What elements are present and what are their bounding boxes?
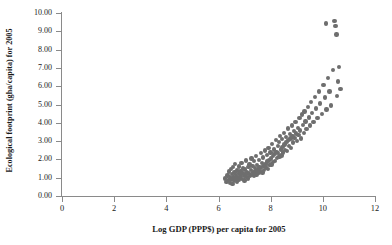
- data-point: [324, 107, 328, 111]
- data-point: [310, 111, 314, 115]
- y-tick-label-text: 6.00: [18, 82, 52, 90]
- data-point: [299, 136, 303, 140]
- x-tick-mark: [114, 197, 115, 202]
- data-point: [329, 103, 333, 107]
- data-point: [309, 100, 313, 104]
- y-tick-label-text: 7.00: [18, 64, 52, 72]
- x-tick-label: 10: [312, 204, 334, 214]
- y-tick-mark: [56, 123, 61, 124]
- data-point: [326, 76, 330, 80]
- y-tick-mark: [56, 68, 61, 69]
- data-point: [306, 105, 310, 109]
- x-tick-label: 0: [51, 204, 73, 214]
- data-point: [313, 95, 317, 99]
- y-tick-mark: [56, 31, 61, 32]
- data-point: [311, 120, 315, 124]
- data-point: [335, 94, 339, 98]
- y-tick-mark: [56, 105, 61, 106]
- x-tick-mark: [323, 197, 324, 202]
- y-tick-mark: [56, 13, 61, 14]
- y-tick-label-text: 1.00: [18, 174, 52, 182]
- y-tick-label-text: 2.00: [18, 155, 52, 163]
- y-tick-mark: [56, 50, 61, 51]
- data-point: [336, 79, 340, 83]
- x-tick-label: 6: [208, 204, 230, 214]
- y-tick-label-text: 10.00: [18, 9, 52, 17]
- data-point: [337, 65, 341, 69]
- scatter-plot-figure: Ecological footprint (gha/capita) for 20…: [0, 0, 392, 245]
- x-tick-mark: [375, 197, 376, 202]
- x-tick-mark: [166, 197, 167, 202]
- y-axis-title: Ecological footprint (gha/capita) for 20…: [0, 0, 18, 200]
- data-point: [318, 101, 322, 105]
- y-tick-mark: [56, 196, 61, 197]
- data-point: [327, 89, 331, 93]
- data-point: [323, 95, 327, 99]
- y-tick-label-text: 9.00: [18, 27, 52, 35]
- data-point: [290, 123, 294, 127]
- y-tick-mark: [56, 159, 61, 160]
- data-point: [332, 19, 336, 23]
- data-point: [317, 89, 321, 93]
- plot-area: [62, 13, 375, 196]
- data-point: [302, 131, 306, 135]
- data-point: [239, 161, 243, 165]
- y-tick-label-text: 8.00: [18, 46, 52, 54]
- y-tick-label-text: 4.00: [18, 119, 52, 127]
- y-axis-title-label: Ecological footprint (gha/capita) for 20…: [5, 28, 14, 172]
- data-point: [321, 83, 325, 87]
- x-tick-mark: [271, 197, 272, 202]
- y-tick-mark: [56, 178, 61, 179]
- x-tick-label: 12: [364, 204, 386, 214]
- data-point: [266, 167, 270, 171]
- x-tick-label: 8: [260, 204, 282, 214]
- x-tick-label: 2: [103, 204, 125, 214]
- data-point: [285, 149, 289, 153]
- data-point: [314, 106, 318, 110]
- y-tick-mark: [56, 141, 61, 142]
- x-tick-label: 4: [155, 204, 177, 214]
- data-point: [307, 115, 311, 119]
- x-axis-title: Log GDP (PPP$) per capita for 2005: [62, 224, 376, 234]
- data-point: [331, 68, 335, 72]
- data-point: [324, 21, 328, 25]
- data-point: [293, 120, 297, 124]
- data-point: [270, 142, 274, 146]
- x-tick-mark: [62, 197, 63, 202]
- data-point: [334, 32, 338, 36]
- y-tick-mark: [56, 86, 61, 87]
- data-point: [333, 24, 337, 28]
- y-tick-label-text: 5.00: [18, 101, 52, 109]
- data-point: [308, 123, 312, 127]
- data-point: [315, 116, 319, 120]
- x-tick-mark: [219, 197, 220, 202]
- data-point: [320, 112, 324, 116]
- y-tick-label-text: 3.00: [18, 137, 52, 145]
- data-point: [338, 87, 342, 91]
- y-tick-label-text: 0.00: [18, 192, 52, 200]
- data-point: [289, 146, 293, 150]
- data-point: [302, 109, 306, 113]
